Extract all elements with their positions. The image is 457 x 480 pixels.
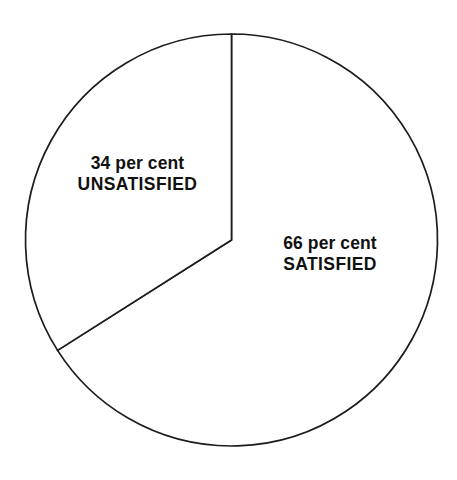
pie-label-satisfied-name: SATISFIED [255, 254, 405, 275]
pie-label-unsatisfied-value: 34 per cent [55, 153, 220, 174]
pie-label-unsatisfied-name: UNSATISFIED [55, 174, 220, 195]
pie-label-satisfied: 66 per cent SATISFIED [255, 233, 405, 274]
pie-label-satisfied-value: 66 per cent [255, 233, 405, 254]
pie-label-unsatisfied: 34 per cent UNSATISFIED [55, 153, 220, 194]
pie-chart: 34 per cent UNSATISFIED 66 per cent SATI… [0, 0, 457, 480]
